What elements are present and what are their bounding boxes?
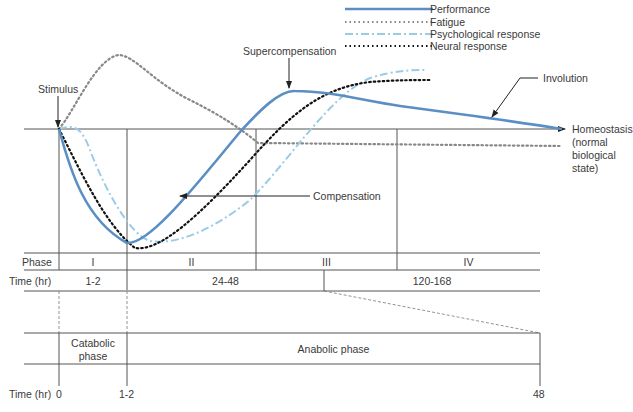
stimulus-label: Stimulus [38, 83, 78, 95]
supercompensation-label: Supercompensation [243, 45, 336, 57]
neural-response-curve [59, 80, 432, 248]
catabolic-phase-line2: phase [59, 350, 127, 362]
lower-tick-1-2: 1-2 [119, 388, 134, 400]
legend-fatigue: Fatigue [430, 16, 465, 28]
legend-psychological-response: Psychological response [430, 28, 540, 40]
phase-iii: III [256, 256, 397, 268]
homeostasis-label-1: Homeostasis [572, 123, 633, 135]
anabolic-phase: Anabolic phase [127, 343, 540, 355]
homeostasis-label-2: (normal [572, 136, 608, 148]
legend-neural-response: Neural response [430, 40, 507, 52]
time-row-label: Time (hr) [9, 275, 51, 287]
time-24-48: 24-48 [127, 275, 324, 287]
lower-time-label: Time (hr) [9, 388, 51, 400]
compensation-label: Compensation [313, 190, 381, 202]
time-1-2: 1-2 [59, 275, 127, 287]
performance-curve [59, 91, 562, 243]
time-120-168: 120-168 [324, 275, 540, 287]
phase-ii: II [127, 256, 256, 268]
catabolic-phase-line1: Catabolic [59, 337, 127, 349]
phase-iv: IV [397, 256, 540, 268]
psychological-response-curve [59, 70, 425, 242]
homeostasis-label-4: state) [572, 162, 598, 174]
zoom-connectors [59, 291, 540, 333]
annotation-arrows [58, 58, 538, 196]
phase-row-label: Phase [22, 256, 52, 268]
involution-label: Involution [543, 72, 588, 84]
homeostasis-label-3: biological [572, 149, 616, 161]
legend-swatches [345, 9, 433, 46]
lower-tick-0: 0 [56, 388, 62, 400]
phase-i: I [59, 256, 127, 268]
legend-performance: Performance [430, 3, 490, 15]
lower-tick-48: 48 [533, 388, 545, 400]
